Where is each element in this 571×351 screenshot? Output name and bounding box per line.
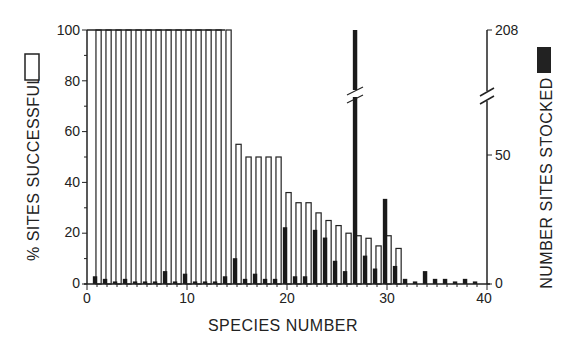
y-right-title-group: NUMBER SITES STOCKED xyxy=(538,77,555,289)
bar-percent-successful xyxy=(146,30,151,284)
bar-number-stocked xyxy=(403,279,407,284)
bar-percent-successful xyxy=(196,30,201,284)
bar-percent-successful xyxy=(176,30,181,284)
bar-percent-successful xyxy=(256,157,261,284)
bar-number-stocked xyxy=(223,276,227,284)
bar-number-stocked xyxy=(253,274,257,284)
bar-number-stocked xyxy=(363,256,367,284)
bar-number-stocked xyxy=(263,279,267,284)
bar-number-stocked xyxy=(373,269,377,284)
bar-number-stocked xyxy=(463,279,467,284)
y-left-tick-80: 80 xyxy=(64,73,80,89)
bar-percent-successful xyxy=(116,30,121,284)
bar-number-stocked xyxy=(233,258,237,284)
bar-number-stocked xyxy=(163,271,167,284)
bar-number-stocked xyxy=(333,261,337,284)
bars-layer xyxy=(93,30,477,284)
y-left-title-group: % SITES SUCCESSFUL xyxy=(25,75,42,261)
y-left-tick-0: 0 xyxy=(72,275,80,291)
bar-number-stocked xyxy=(293,276,297,284)
bar-percent-successful xyxy=(306,203,311,284)
bar-percent-successful xyxy=(186,30,191,284)
bar-percent-successful xyxy=(296,203,301,284)
bar-number-stocked xyxy=(323,238,327,284)
y-left-axis-title: % SITES SUCCESSFUL xyxy=(25,75,42,261)
y-right-tick-0: 0 xyxy=(495,275,503,291)
bar-percent-successful xyxy=(106,30,111,284)
bar-number-stocked xyxy=(353,30,357,284)
bar-percent-successful xyxy=(166,30,171,284)
bar-number-stocked xyxy=(303,276,307,284)
bar-number-stocked xyxy=(93,276,97,284)
bar-number-stocked xyxy=(423,271,427,284)
legend-solid-swatch-icon xyxy=(537,47,551,73)
bar-number-stocked xyxy=(393,266,397,284)
y-right-tick-208: 208 xyxy=(495,22,519,38)
bar-number-stocked xyxy=(103,279,107,284)
bar-number-stocked xyxy=(183,274,187,284)
bar-number-stocked xyxy=(443,279,447,284)
legend-open-swatch-icon xyxy=(25,54,39,80)
x-axis-title: SPECIES NUMBER xyxy=(208,317,358,334)
bar-percent-successful xyxy=(276,157,281,284)
x-tick-10: 10 xyxy=(179,290,195,306)
bar-chart: 100 80 60 40 20 0 208 50 0 0 10 20 30 40… xyxy=(0,0,571,351)
y-left-tick-100: 100 xyxy=(57,22,81,38)
x-tick-0: 0 xyxy=(83,290,91,306)
bar-number-stocked xyxy=(343,271,347,284)
bar-number-stocked xyxy=(273,279,277,284)
y-right-axis-title: NUMBER SITES STOCKED xyxy=(538,77,555,289)
bar-number-stocked xyxy=(283,227,287,284)
y-left-tick-40: 40 xyxy=(64,174,80,190)
bar-number-stocked xyxy=(433,279,437,284)
y-left-tick-20: 20 xyxy=(64,224,80,240)
x-tick-40: 40 xyxy=(476,290,492,306)
y-right-tick-50: 50 xyxy=(495,147,511,163)
bar-number-stocked xyxy=(313,230,317,284)
bar-percent-successful xyxy=(156,30,161,284)
bar-number-stocked xyxy=(243,279,247,284)
bar-percent-successful xyxy=(206,30,211,284)
bar-percent-successful xyxy=(226,30,231,284)
bar-percent-successful xyxy=(126,30,131,284)
bar-percent-successful xyxy=(96,30,101,284)
bar-number-stocked xyxy=(383,199,387,284)
x-tick-20: 20 xyxy=(279,290,295,306)
bar-percent-successful xyxy=(246,157,251,284)
y-left-tick-60: 60 xyxy=(64,123,80,139)
bar-percent-successful xyxy=(136,30,141,284)
bar-percent-successful xyxy=(216,30,221,284)
bar-number-stocked xyxy=(123,279,127,284)
x-tick-30: 30 xyxy=(379,290,395,306)
bar-percent-successful xyxy=(266,157,271,284)
